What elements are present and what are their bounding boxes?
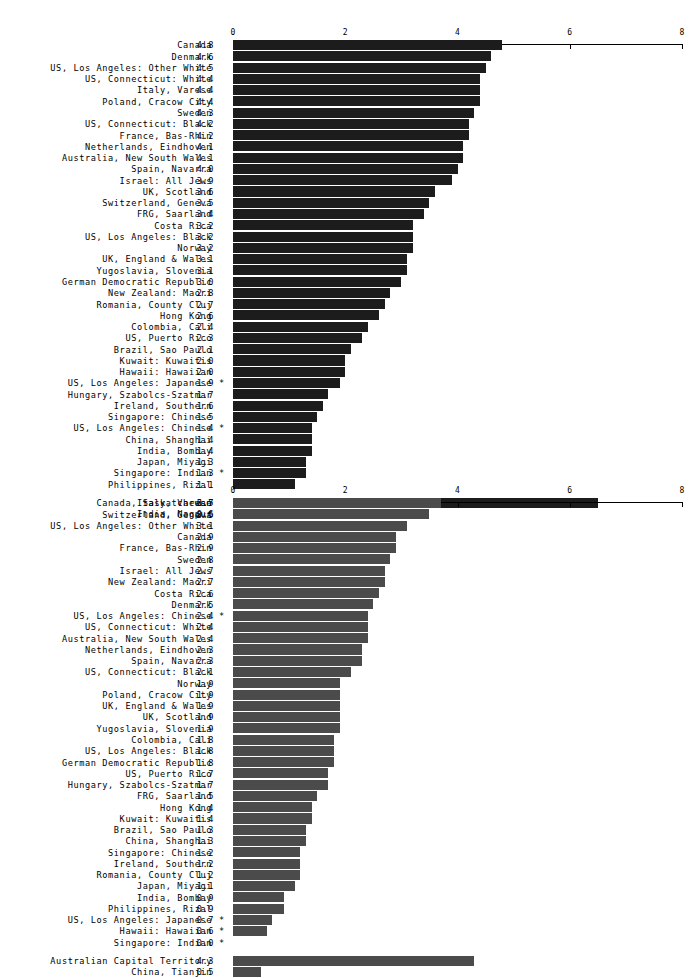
bar-row-value: 2.0 [186,356,214,367]
bar-row: France, Bas-Rhin4.2 [0,130,698,141]
bar [233,611,368,621]
bar-row: Japan, Miyagi1.3 [0,457,698,468]
bar-row-marker-asterisk: * [219,423,224,434]
bar [233,108,474,118]
bar-row-value: 4.0 [186,164,214,175]
bar [233,153,463,163]
bar-row-value: 2.6 [186,311,214,322]
bar [233,633,368,643]
bar-row-value: 1.9 [186,701,214,712]
bar-row: Hungary, Szabolcs-Szatmar1.7 [0,780,698,791]
bar [233,915,272,925]
bar [233,63,486,73]
bar-row: Switzerland, Geneva3.5 [0,509,698,520]
bar [233,521,407,531]
bar-row-value: 2.8 [186,555,214,566]
bar-row-value: 4.6 [186,52,214,63]
bar-row-marker-asterisk: * [219,915,224,926]
bar [233,344,351,354]
bar-row-value: 3.4 [186,209,214,220]
bar [233,622,368,632]
bar-row: Brazil, Sao Paulo2.1 [0,344,698,355]
bar-row: US, Puerto Rico1.7 [0,768,698,779]
bar-row: US, Connecticut: White4.4 [0,74,698,85]
bar-row: Brazil, Sao Paulo1.3 [0,825,698,836]
bar-row: US, Los Angeles: Other White3.1 [0,521,698,532]
bar-row: Poland, Cracow City1.9 [0,690,698,701]
bar [233,904,284,914]
bar [233,577,385,587]
bar [233,130,469,140]
bar [233,220,413,230]
bar-row-value: 3.5 [186,510,214,521]
bar-row: Yugoslavia, Slovenia3.1 [0,265,698,276]
bar [233,768,328,778]
bar [233,186,435,196]
bar-row-value: 1.9 [186,690,214,701]
bar-row: Kuwait: Kuwaitis1.4 [0,813,698,824]
bar-row-value: 2.4 [186,634,214,645]
bar [233,701,340,711]
bar-row-value: 4.8 [186,40,214,51]
bar [233,554,390,564]
chart-panel-top: 02468 Canada4.8Denmark4.6US, Los Angeles… [0,0,698,478]
bar-row-value: 1.1 [186,881,214,892]
bar-row-value: 2.1 [186,345,214,356]
bar-row: Denmark4.6 [0,51,698,62]
bar-row-value: 1.5 [186,791,214,802]
bar-row: Norway3.2 [0,243,698,254]
bar-row-value: 2.9 [186,532,214,543]
bar [233,532,396,542]
bar-row-value: 1.9 [186,378,214,389]
bar [233,723,340,733]
bar-row-value: 3.1 [186,521,214,532]
bar-row-marker-asterisk: * [219,926,224,937]
bar-row-value: 0.7 [186,915,214,926]
bar [233,434,312,444]
bar [233,859,300,869]
bar-row-value: 2.4 [186,611,214,622]
bar [233,735,334,745]
bar-row-value: 0.0 [186,938,214,949]
bar-row: US, Connecticut: Black2.1 [0,667,698,678]
bar-row-value: 2.3 [186,656,214,667]
bar-row: US, Los Angeles: Black1.8 [0,746,698,757]
bar-row-value: 2.6 [186,589,214,600]
bar-row: Kuwait: Kuwaitis2.0 [0,355,698,366]
bar-row: Singapore: Chinese1.2 [0,847,698,858]
bar-row: Ireland, Southern1.6 [0,401,698,412]
bar [233,757,334,767]
section-gap [0,949,698,956]
bar-row: US, Los Angeles: Japanese0.7* [0,915,698,926]
bar [233,423,312,433]
bar-row: Canada4.8 [0,40,698,51]
bar-row: Sweden4.3 [0,108,698,119]
bar [233,141,463,151]
bar-row: US, Los Angeles: Chinese2.4* [0,611,698,622]
bar-row-value: 4.3 [186,108,214,119]
bar-row-value: 1.3 [186,457,214,468]
axis-tick-label: 4 [455,29,460,37]
bar-row: FRG, Saarland3.4 [0,209,698,220]
bar [233,401,323,411]
bar-row: Australian Capital Territory4.3 [0,956,698,967]
bar-row-value: 1.2 [186,859,214,870]
bar-row: UK, Scotland1.9 [0,712,698,723]
bar-row: Switzerland, Geneva3.5 [0,198,698,209]
bar [233,712,340,722]
bar [233,457,306,467]
bar-row: UK, England & Wales1.9 [0,701,698,712]
bar-row-value: 1.3 [186,825,214,836]
bar [233,468,306,478]
bar [233,813,312,823]
bar-row: Singapore: Indian0.0* [0,937,698,948]
bar-row: German Democratic Republic3.0 [0,277,698,288]
bar-row: Ireland, Southern1.2 [0,859,698,870]
bar [233,870,300,880]
bar-row-value: 0.5 [186,967,214,978]
bar-row: Spain, Navarra2.3 [0,656,698,667]
bar-row: Italy, Varese3.7 [0,498,698,509]
bar-row: US, Los Angeles: Black3.2 [0,232,698,243]
bar-row: Poland, Cracow City4.4 [0,96,698,107]
bar-row: US, Los Angeles: Other White4.5 [0,63,698,74]
